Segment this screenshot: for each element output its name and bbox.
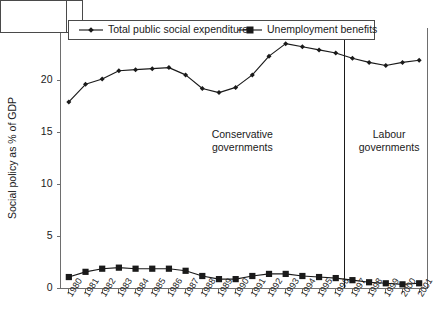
annotation-text-line: governments (212, 141, 273, 153)
annotation-border (0, 0, 66, 32)
data-series-group (66, 41, 423, 287)
data-point-marker (199, 273, 205, 279)
x-tick-label: 1993 (282, 276, 301, 298)
social-policy-line-chart: Social policy as % of GDP 0510152025 198… (0, 0, 448, 328)
data-point-marker (133, 67, 138, 72)
data-point-marker (233, 276, 239, 282)
x-tick-label: 1991 (249, 276, 268, 298)
annotation-text-line: Conservative (212, 128, 273, 140)
axes (61, 28, 429, 289)
x-tick-label: 1982 (98, 276, 117, 298)
series-total-public-social-expenditure (66, 41, 421, 104)
data-point-marker (249, 273, 255, 279)
y-axis-ticks: 0510152025 (41, 21, 61, 294)
chart-container: Social policy as % of GDP 0510152025 198… (0, 0, 448, 328)
data-point-marker (183, 268, 189, 274)
data-point-marker (266, 271, 272, 277)
data-point-marker (216, 90, 221, 95)
x-axis-ticks: 1980198119821983198419851986198719881989… (65, 276, 434, 298)
y-tick-label: 20 (41, 73, 53, 85)
x-tick-label: 1999 (382, 276, 401, 298)
data-point-marker (383, 63, 388, 68)
x-tick-label: 1983 (115, 276, 134, 298)
x-tick-label: 1985 (148, 276, 167, 298)
x-tick-label: 2001 (415, 276, 434, 298)
x-tick-label: 1988 (199, 276, 218, 298)
x-tick-label: 1986 (165, 276, 184, 298)
data-point-marker (283, 271, 289, 277)
data-point-marker (367, 60, 372, 65)
annotation-text-line: Labour (373, 128, 406, 140)
series-line (69, 44, 419, 102)
data-point-marker (132, 266, 138, 272)
data-point-marker (349, 277, 355, 283)
data-point-marker (399, 281, 405, 287)
data-point-marker (216, 276, 222, 282)
y-tick-label: 15 (41, 125, 53, 137)
data-point-marker (300, 44, 305, 49)
data-point-marker (417, 58, 422, 63)
x-tick-label: 1994 (299, 276, 318, 298)
data-point-marker (166, 65, 171, 70)
x-tick-label: 1992 (265, 276, 284, 298)
data-point-marker (366, 279, 372, 285)
data-point-marker (316, 274, 322, 280)
y-tick-label: 5 (47, 229, 53, 241)
legend-label-total-public-social-expenditure: Total public social expenditure (108, 23, 248, 35)
x-tick-label: 1984 (132, 276, 151, 298)
data-point-marker (333, 275, 339, 281)
data-point-marker (116, 265, 122, 271)
chart-legend: Total public social expenditure Unemploy… (69, 21, 378, 40)
x-tick-label: 1981 (82, 276, 101, 298)
annotation-text-line: governments (359, 141, 420, 153)
y-tick-label: 0 (47, 281, 53, 293)
data-point-marker (350, 56, 355, 61)
data-point-marker (100, 77, 105, 82)
data-point-marker (99, 266, 105, 272)
data-point-marker (333, 51, 338, 56)
data-point-marker (383, 280, 389, 286)
data-point-marker (149, 266, 155, 272)
data-point-marker (116, 68, 121, 73)
data-point-marker (299, 273, 305, 279)
data-point-marker (82, 269, 88, 275)
data-point-marker (150, 66, 155, 71)
legend-marker-square-icon (247, 27, 254, 34)
data-point-marker (166, 266, 172, 272)
x-tick-label: 1987 (182, 276, 201, 298)
y-tick-label: 10 (41, 177, 53, 189)
data-point-marker (416, 280, 422, 286)
data-point-marker (400, 60, 405, 65)
y-axis-title: Social policy as % of GDP (6, 97, 18, 219)
data-point-marker (66, 274, 72, 280)
data-point-marker (317, 47, 322, 52)
legend-label-unemployment-benefits: Unemployment benefits (267, 23, 377, 35)
